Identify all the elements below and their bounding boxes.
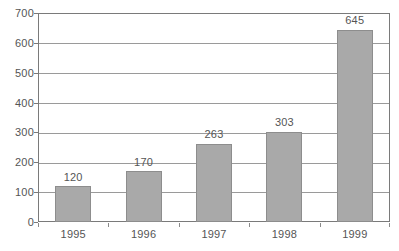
x-tick-mark-1 xyxy=(108,223,109,227)
y-axis: 700 600 500 400 300 200 100 0 xyxy=(0,0,34,251)
x-tick-mark-5 xyxy=(389,223,390,227)
x-tick-label-1995: 1995 xyxy=(38,228,108,244)
x-tick-label-1996: 1996 xyxy=(108,228,178,244)
y-tick-label-100: 100 xyxy=(0,187,34,198)
bar-1998[interactable] xyxy=(266,132,302,222)
bar-slot-1999: 645 xyxy=(320,13,390,222)
bar-1996[interactable] xyxy=(126,171,162,222)
bar-chart: 700 600 500 400 300 200 100 0 120 xyxy=(0,0,399,251)
y-tick-label-700: 700 xyxy=(0,8,34,19)
bar-1997[interactable] xyxy=(196,144,232,223)
bar-value-label-1998: 303 xyxy=(275,117,294,128)
x-tick-mark-3 xyxy=(249,223,250,227)
y-tick-label-0: 0 xyxy=(0,217,34,228)
bar-slot-1997: 263 xyxy=(179,13,249,222)
bar-value-label-1995: 120 xyxy=(64,172,83,183)
bar-1999[interactable] xyxy=(337,30,373,223)
x-tick-mark-4 xyxy=(320,223,321,227)
bar-slot-1996: 170 xyxy=(108,13,178,222)
bar-value-label-1999: 645 xyxy=(345,15,364,26)
x-tick-mark-0 xyxy=(38,223,39,227)
y-tick-label-600: 600 xyxy=(0,38,34,49)
bar-1995[interactable] xyxy=(55,186,91,222)
x-tick-label-1998: 1998 xyxy=(249,228,319,244)
bar-slot-1998: 303 xyxy=(249,13,319,222)
bar-value-label-1997: 263 xyxy=(205,129,224,140)
y-tick-label-400: 400 xyxy=(0,98,34,109)
y-tick-label-500: 500 xyxy=(0,68,34,79)
y-tick-label-300: 300 xyxy=(0,127,34,138)
x-axis: 1995 1996 1997 1998 1999 xyxy=(38,228,390,244)
x-tick-label-1997: 1997 xyxy=(179,228,249,244)
bars-layer: 120 170 263 303 645 xyxy=(38,13,390,222)
bar-value-label-1996: 170 xyxy=(134,157,153,168)
y-tick-label-200: 200 xyxy=(0,157,34,168)
x-axis-tick-marks xyxy=(38,223,390,227)
x-tick-label-1999: 1999 xyxy=(320,228,390,244)
bar-slot-1995: 120 xyxy=(38,13,108,222)
x-tick-mark-2 xyxy=(179,223,180,227)
